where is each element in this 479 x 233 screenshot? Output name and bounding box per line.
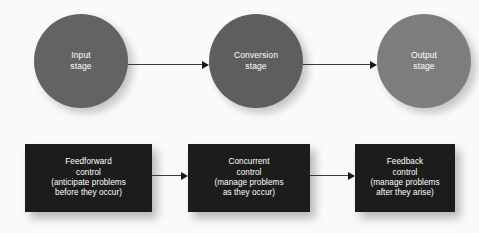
control-box-concurrent: Concurrent control (manage problems as t… xyxy=(188,144,310,212)
arrow-right-icon-conversion-to-output xyxy=(303,60,378,69)
arrow-shaft xyxy=(310,175,349,176)
control-label-feedback-line2: control xyxy=(393,168,418,178)
arrow-shaft xyxy=(303,64,371,65)
stage-circle-conversion: Conversion stage xyxy=(209,14,303,108)
stage-circle-input: Input stage xyxy=(34,14,128,108)
control-box-feedforward: Feedforward control (anticipate problems… xyxy=(25,144,152,212)
arrow-shaft xyxy=(128,64,203,65)
arrow-shaft xyxy=(152,175,182,176)
control-label-feedforward-line1: Feedforward xyxy=(65,157,112,167)
control-box-feedback: Feedback control (manage problems after … xyxy=(355,144,455,212)
control-label-feedback-line3: (manage problems xyxy=(370,178,439,188)
arrow-head xyxy=(202,61,209,69)
control-process-diagram: Input stage Conversion stage Output stag… xyxy=(0,0,479,233)
control-label-concurrent-line4: as they occur) xyxy=(223,188,275,198)
control-label-feedback-line4: after they arise) xyxy=(376,188,434,198)
control-label-concurrent-line2: control xyxy=(237,168,262,178)
stage-circle-output: Output stage xyxy=(377,14,471,108)
stage-label-output-line2: stage xyxy=(413,61,434,72)
arrow-right-icon-feedforward-to-concurrent xyxy=(152,171,189,180)
control-label-feedforward-line3: (anticipate problems xyxy=(51,178,126,188)
stage-label-input-line2: stage xyxy=(70,61,91,72)
control-label-feedforward-line2: control xyxy=(76,168,101,178)
arrow-head xyxy=(370,61,377,69)
arrow-head xyxy=(181,172,188,180)
control-label-feedback-line1: Feedback xyxy=(387,157,423,167)
arrow-right-icon-input-to-conversion xyxy=(128,60,210,69)
control-label-concurrent-line1: Concurrent xyxy=(228,157,269,167)
control-label-feedforward-line4: before they occur) xyxy=(55,188,122,198)
control-label-concurrent-line3: (manage problems xyxy=(214,178,283,188)
arrow-head xyxy=(348,172,355,180)
stage-label-conversion-line1: Conversion xyxy=(234,50,278,61)
stage-label-output-line1: Output xyxy=(411,50,437,61)
arrow-right-icon-concurrent-to-feedback xyxy=(310,171,356,180)
stage-label-conversion-line2: stage xyxy=(245,61,266,72)
stage-label-input-line1: Input xyxy=(71,50,90,61)
